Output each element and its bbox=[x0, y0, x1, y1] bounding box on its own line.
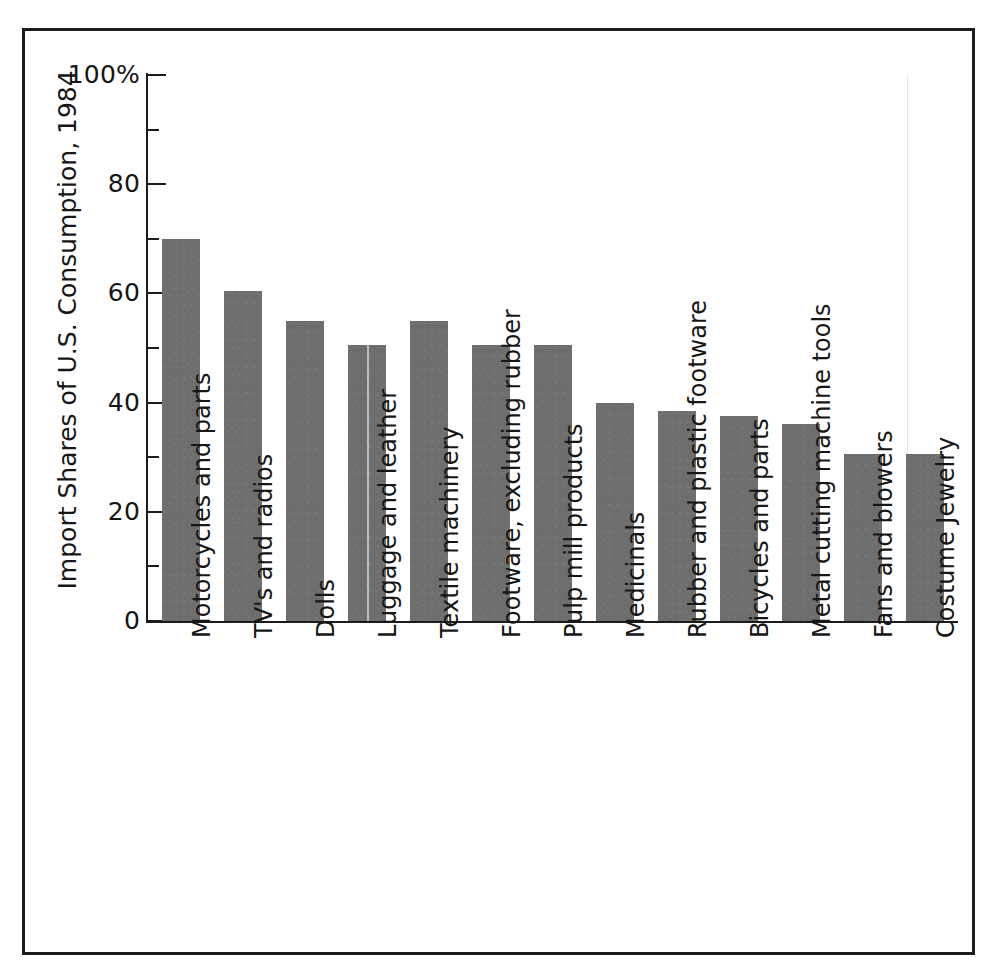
category-label: Dolls bbox=[314, 579, 338, 638]
y-tick-minor-90 bbox=[148, 129, 159, 131]
y-tick-major-100 bbox=[148, 74, 166, 76]
category-label: Luggage and leather bbox=[376, 389, 400, 638]
category-label: Medicinals bbox=[624, 512, 648, 638]
y-tick-label-40: 40 bbox=[48, 390, 140, 415]
category-label: Fans and blowers bbox=[872, 430, 896, 638]
y-tick-major-80 bbox=[148, 183, 166, 185]
y-tick-label-60: 60 bbox=[48, 280, 140, 305]
y-tick-minor-10 bbox=[148, 565, 159, 567]
bar bbox=[286, 321, 324, 621]
y-tick-label-20: 20 bbox=[48, 499, 140, 524]
category-label: Footware, excluding rubber bbox=[500, 309, 524, 638]
category-label: Pulp mill products bbox=[562, 423, 586, 638]
category-label: Bicycles and parts bbox=[748, 418, 772, 638]
y-tick-minor-70 bbox=[148, 238, 159, 240]
y-tick-minor-50 bbox=[148, 347, 159, 349]
category-label: TV's and radios bbox=[252, 454, 276, 638]
plot-area: Import Shares of U.S. Consumption, 1984 … bbox=[0, 0, 997, 971]
y-tick-label-0: 0 bbox=[48, 608, 140, 633]
category-label: Motorcycles and parts bbox=[190, 373, 214, 639]
y-tick-minor-30 bbox=[148, 456, 159, 458]
category-label: Textile machinery bbox=[438, 427, 462, 638]
y-tick-label-100: 100% bbox=[48, 62, 140, 87]
category-label: Metal cutting machine tools bbox=[810, 303, 834, 638]
category-label: Rubber and plastic footware bbox=[686, 300, 710, 638]
y-tick-label-80: 80 bbox=[48, 171, 140, 196]
bar-print-seam bbox=[367, 345, 369, 621]
chart-page: Import Shares of U.S. Consumption, 1984 … bbox=[0, 0, 997, 971]
category-label: Costume Jewelry bbox=[934, 437, 958, 638]
